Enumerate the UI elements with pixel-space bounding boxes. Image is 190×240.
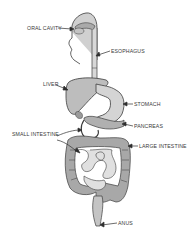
label-small-intestine: SMALL INTESTINE: [12, 131, 59, 137]
digestive-system-illustration: [0, 0, 190, 240]
label-pancreas: PANCREAS: [134, 123, 163, 129]
liver: [66, 78, 108, 119]
esophagus: [92, 28, 97, 82]
label-stomach: STOMACH: [134, 101, 161, 107]
label-large-intestine: LARGE INTESTINE: [139, 143, 187, 149]
label-anus: ANUS: [118, 220, 133, 226]
small-intestine: [78, 149, 116, 190]
label-oral-cavity: ORAL CAVITY: [27, 25, 62, 31]
large-intestine: [65, 136, 130, 202]
rectum: [93, 196, 103, 226]
label-esophagus: ESOPHAGUS: [111, 48, 145, 54]
label-liver: LIVER: [43, 81, 59, 87]
